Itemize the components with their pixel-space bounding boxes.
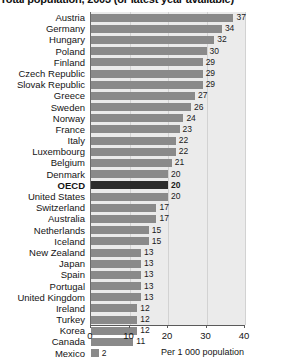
category-label-row: Netherlands <box>0 225 89 236</box>
bar-row: 22 <box>91 135 245 146</box>
bar-row: 13 <box>91 281 245 292</box>
category-label-row: Iceland <box>0 236 89 247</box>
bar-track: 12 <box>91 314 245 325</box>
category-label-row: Ireland <box>0 303 89 314</box>
bar-track: 24 <box>91 113 245 124</box>
bar-value-label: 30 <box>210 46 219 57</box>
bar-track: 26 <box>91 102 245 113</box>
plot-area: AustriaGermanyHungaryPolandFinlandCzech … <box>0 12 283 325</box>
bar-row: 20 <box>91 180 245 191</box>
category-label: Spain <box>0 269 89 280</box>
category-label-row: Italy <box>0 135 89 146</box>
bar-value-label: 13 <box>144 281 153 292</box>
bar-row: 12 <box>91 303 245 314</box>
bar-row: 13 <box>91 247 245 258</box>
bar-row: 13 <box>91 269 245 280</box>
category-label: Luxembourg <box>0 146 89 157</box>
bar <box>91 36 214 44</box>
x-axis-tick <box>90 325 91 328</box>
category-label-row: Slovak Republic <box>0 79 89 90</box>
bar-value-label: 12 <box>140 314 149 325</box>
category-label-row: Sweden <box>0 102 89 113</box>
bar-value-label: 29 <box>206 57 215 68</box>
category-label-row: Spain <box>0 269 89 280</box>
bar-track: 29 <box>91 57 245 68</box>
x-axis-tick-label: 20 <box>162 330 173 341</box>
category-label: Canada <box>0 336 89 347</box>
category-label-row: Mexico <box>0 348 89 359</box>
bar-row: 17 <box>91 213 245 224</box>
category-label-row: Portugal <box>0 281 89 292</box>
bar-value-label: 32 <box>217 34 226 45</box>
bar-track: 13 <box>91 292 245 303</box>
bar-row: 30 <box>91 46 245 57</box>
category-label-row: Denmark <box>0 169 89 180</box>
bar <box>91 81 203 89</box>
bar-value-label: 20 <box>171 169 180 180</box>
bar-track: 13 <box>91 247 245 258</box>
category-label-row: Turkey <box>0 314 89 325</box>
bar-value-label: 15 <box>152 225 161 236</box>
chart-figure: Total population, 2003 (or latest year a… <box>0 0 283 361</box>
bar-row: 29 <box>91 68 245 79</box>
category-label: France <box>0 124 89 135</box>
bar-track: 27 <box>91 90 245 101</box>
bar-value-label: 13 <box>144 292 153 303</box>
bar-value-label: 24 <box>186 113 195 124</box>
category-label: Germany <box>0 23 89 34</box>
bar-value-label: 29 <box>206 79 215 90</box>
category-label: Mexico <box>0 348 89 359</box>
bar-value-label: 37 <box>236 12 245 23</box>
bar-value-label: 17 <box>159 213 168 224</box>
bar-track: 29 <box>91 68 245 79</box>
x-axis-tick <box>129 325 130 328</box>
bar-row: 12 <box>91 314 245 325</box>
bar <box>91 114 183 122</box>
bar-value-label: 22 <box>179 135 188 146</box>
category-label-row: Austria <box>0 12 89 23</box>
bar <box>91 159 172 167</box>
bars-column: 3734323029292927262423222221202020171715… <box>90 12 245 325</box>
category-label: Italy <box>0 135 89 146</box>
bar-value-label: 15 <box>152 236 161 247</box>
bar-track: 17 <box>91 202 245 213</box>
bar-row: 22 <box>91 146 245 157</box>
category-label: United States <box>0 191 89 202</box>
bar-row: 29 <box>91 79 245 90</box>
category-label: United Kingdom <box>0 292 89 303</box>
bar-track: 32 <box>91 34 245 45</box>
gridline <box>245 12 246 325</box>
bar-row: 15 <box>91 236 245 247</box>
x-axis-tick <box>206 325 207 328</box>
bar <box>91 181 168 189</box>
bar <box>91 282 141 290</box>
category-label: Poland <box>0 46 89 57</box>
bar-row: 20 <box>91 191 245 202</box>
category-label-row: Switzerland <box>0 202 89 213</box>
bar <box>91 92 195 100</box>
bar-value-label: 26 <box>194 102 203 113</box>
bar-row: 24 <box>91 113 245 124</box>
bar-track: 20 <box>91 169 245 180</box>
bar-value-label: 12 <box>140 303 149 314</box>
bar-row: 27 <box>91 90 245 101</box>
bar-value-label: 23 <box>183 124 192 135</box>
bar-track: 20 <box>91 191 245 202</box>
category-label: Ireland <box>0 303 89 314</box>
bar <box>91 316 137 324</box>
bar <box>91 125 180 133</box>
bar <box>91 58 203 66</box>
category-label: Japan <box>0 258 89 269</box>
bar-row: 13 <box>91 258 245 269</box>
bar-value-label: 13 <box>144 269 153 280</box>
bar-value-label: 21 <box>175 157 184 168</box>
category-label: OECD <box>0 180 89 191</box>
category-label-row: Canada <box>0 336 89 347</box>
category-label: Sweden <box>0 102 89 113</box>
bar-row: 17 <box>91 202 245 213</box>
bar-track: 34 <box>91 23 245 34</box>
bar-value-label: 29 <box>206 68 215 79</box>
category-label-row: Norway <box>0 113 89 124</box>
bar-value-label: 13 <box>144 258 153 269</box>
bar-track: 13 <box>91 258 245 269</box>
